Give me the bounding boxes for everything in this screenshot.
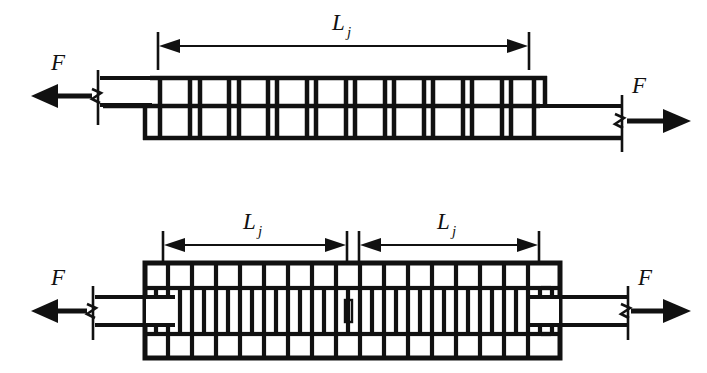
inner-cell [505, 288, 527, 334]
inner-cell [409, 288, 431, 334]
inner-cell [481, 288, 503, 334]
bottom-dim-right-label-L: L [436, 209, 450, 234]
bottom-dim-right-label-j: j [450, 223, 456, 239]
top-dim-label: L j [331, 10, 351, 40]
inner-cell-center [337, 288, 359, 334]
left-plate-gap [146, 299, 174, 323]
top-force-left: F [31, 50, 101, 125]
inner-cell [265, 288, 287, 334]
break-symbol-icon [92, 89, 101, 103]
top-force-arrowhead-right [663, 109, 691, 133]
bottom-dimension-group-left [163, 231, 347, 261]
bottom-dim-label-right: L j [436, 209, 456, 239]
top-force-label-left: F [50, 50, 66, 75]
top-force-arrowhead-left [31, 84, 58, 108]
bottom-force-left: F [31, 265, 96, 340]
bottom-dim-right-arrowhead-end [517, 238, 538, 252]
bottom-force-arrowhead-left [31, 299, 58, 323]
top-force-right: F [615, 73, 691, 152]
top-dim-label-j: j [345, 24, 351, 40]
right-plate-gap [532, 299, 559, 323]
bottom-dim-label-left: L j [242, 209, 262, 239]
inner-cell [241, 288, 263, 334]
inner-cell [385, 288, 407, 334]
top-dim-arrowhead-left [159, 39, 180, 53]
bottom-dim-left-label-j: j [256, 223, 262, 239]
top-diagram: L j [31, 10, 691, 152]
inner-cell [313, 288, 335, 334]
bottom-dimension-group-right [359, 231, 539, 261]
figure-root: L j [0, 0, 707, 373]
bottom-diagram: L j L j [31, 209, 691, 358]
inner-cell [433, 288, 455, 334]
inner-cell [361, 288, 383, 334]
top-lower-right-plate [537, 106, 622, 138]
bottom-dim-left-arrowhead-end [325, 238, 346, 252]
bottom-inner-cells [146, 288, 559, 334]
top-dim-label-L: L [331, 10, 345, 35]
top-force-label-right: F [631, 73, 647, 98]
inner-cell [217, 288, 239, 334]
bottom-force-label-left: F [50, 265, 66, 290]
bottom-force-label-right: F [637, 265, 653, 290]
inner-cell [457, 288, 479, 334]
break-symbol-icon [87, 304, 96, 318]
bottom-force-right: F [621, 265, 691, 340]
engineering-diagram-svg: L j [0, 0, 707, 373]
top-upper-left-plate [100, 78, 152, 105]
inner-cell [193, 288, 215, 334]
top-dimension-group [158, 32, 529, 70]
bottom-dim-left-arrowhead-start [164, 238, 185, 252]
inner-cell [289, 288, 311, 334]
top-ladder-structure [103, 76, 622, 140]
bottom-dim-left-label-L: L [242, 209, 256, 234]
bottom-dim-right-arrowhead-start [360, 238, 381, 252]
bottom-force-arrowhead-right [663, 299, 691, 323]
bottom-box-structure [145, 263, 560, 358]
top-dim-arrowhead-right [507, 39, 528, 53]
